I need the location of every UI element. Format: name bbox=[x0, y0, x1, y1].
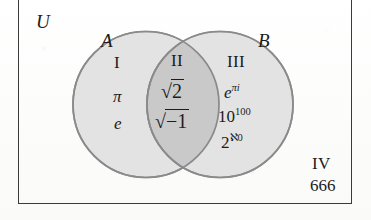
radical-sign-sqrt2: √2 bbox=[161, 78, 184, 101]
radicand-minus-1: −1 bbox=[165, 109, 189, 131]
e-base: e bbox=[224, 83, 232, 102]
item-sqrt-minus-1: √−1 bbox=[155, 108, 189, 131]
item-sqrt-2: √2 bbox=[161, 78, 184, 101]
region-2-numeral: II bbox=[171, 52, 183, 69]
venn-diagram-figure: U A B I II III IV π e √2 √−1 eπi 10100 2… bbox=[0, 0, 371, 220]
universe-label: U bbox=[36, 12, 50, 31]
region-4-numeral: IV bbox=[312, 155, 331, 172]
hundred-exponent: 100 bbox=[235, 106, 251, 117]
set-b-label: B bbox=[258, 31, 270, 50]
item-pi: π bbox=[113, 88, 122, 105]
region-3-numeral: III bbox=[227, 53, 245, 70]
item-two-to-aleph-null: 2ℵ0 bbox=[221, 134, 243, 151]
aleph-null-exponent: ℵ0 bbox=[230, 132, 243, 143]
item-googol: 10100 bbox=[218, 108, 251, 125]
item-e: e bbox=[114, 115, 122, 132]
two-base: 2 bbox=[221, 133, 230, 152]
ten-base: 10 bbox=[218, 107, 235, 126]
radicand-2: 2 bbox=[171, 79, 184, 101]
radical-sign-sqrtm1: √−1 bbox=[155, 108, 189, 131]
set-a-label: A bbox=[101, 31, 113, 50]
pi-i-exponent: πi bbox=[232, 82, 240, 93]
item-666: 666 bbox=[310, 177, 336, 194]
item-e-to-pi-i: eπi bbox=[224, 84, 240, 101]
region-1-numeral: I bbox=[114, 54, 120, 71]
